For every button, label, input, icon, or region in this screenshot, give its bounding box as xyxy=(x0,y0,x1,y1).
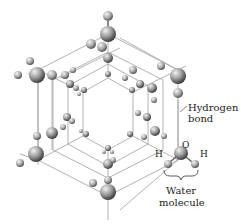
hydrogen-left-label: H xyxy=(155,150,163,159)
ice-lattice-diagram: Hydrogen bond O H H Water molecule xyxy=(0,0,241,224)
hydrogen-bond-label-line2: bond xyxy=(188,114,213,124)
water-molecule-brace xyxy=(164,170,198,180)
oxygen-label: O xyxy=(182,141,189,150)
hydrogen-bond-pointer xyxy=(180,106,187,112)
water-molecule-label-line2: molecule xyxy=(159,198,205,208)
water-molecule-label: Water xyxy=(166,186,196,196)
hydrogen-right-label: H xyxy=(200,150,208,159)
hydrogen-bond-label: Hydrogen xyxy=(188,103,238,113)
atoms xyxy=(14,11,199,200)
